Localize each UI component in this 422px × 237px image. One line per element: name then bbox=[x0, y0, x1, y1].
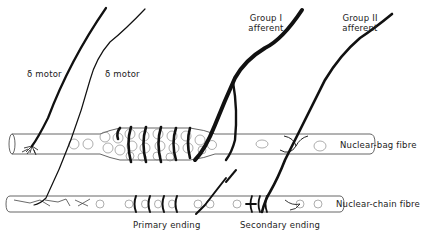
secondary-ending-label: Secondary ending bbox=[240, 220, 320, 230]
nuclear-bag-fibre-label: Nuclear-bag fibre bbox=[340, 140, 417, 150]
nuclear-chain-fibre-label: Nuclear-chain fibre bbox=[336, 199, 420, 209]
group1-afferent-axon bbox=[195, 10, 302, 214]
nuclear-chain-fibre bbox=[6, 196, 344, 212]
group1-afferent-label: Group I afferent bbox=[246, 13, 286, 33]
primary-ending-label: Primary ending bbox=[133, 220, 201, 230]
gamma-motor-axon-2 bbox=[34, 9, 145, 205]
muscle-spindle-diagram: δ motor δ motor Group I afferent Group I… bbox=[0, 0, 422, 237]
group2-label-line2: afferent bbox=[338, 23, 382, 33]
gamma-motor-axon-1 bbox=[22, 8, 106, 155]
group2-label-line1: Group II bbox=[338, 13, 382, 23]
group2-afferent-axon bbox=[262, 14, 392, 212]
group1-label-line1: Group I bbox=[246, 13, 286, 23]
group2-afferent-label: Group II afferent bbox=[338, 13, 382, 33]
gamma-motor-label-1: δ motor bbox=[27, 69, 62, 79]
gamma-motor-label-2: δ motor bbox=[105, 69, 140, 79]
group1-label-line2: afferent bbox=[246, 23, 286, 33]
